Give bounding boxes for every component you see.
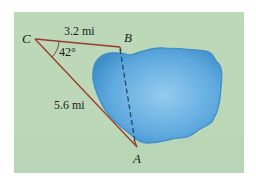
side-ca-length-label: 5.6 mi (54, 98, 85, 112)
lake-triangle-diagram: C B A 3.2 mi 5.6 mi 42° (0, 0, 256, 179)
side-cb-length-label: 3.2 mi (64, 24, 95, 38)
vertex-b-label: B (124, 30, 132, 45)
background-lower-band (14, 136, 244, 173)
vertex-c-label: C (22, 31, 31, 46)
angle-c-label: 42° (59, 45, 76, 59)
vertex-a-label: A (132, 151, 141, 166)
